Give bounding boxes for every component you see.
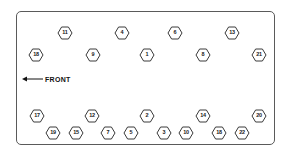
- position-marker-label: 22: [239, 130, 245, 136]
- position-marker-label: 10: [183, 130, 189, 136]
- position-marker-label: 7: [107, 130, 110, 136]
- position-marker[interactable]: 3: [156, 126, 172, 140]
- position-marker-label: 1: [146, 52, 149, 58]
- position-marker[interactable]: 18: [28, 48, 44, 62]
- front-label: FRONT: [45, 76, 71, 83]
- position-marker[interactable]: 12: [84, 109, 100, 123]
- position-marker-label: 6: [174, 30, 177, 36]
- position-marker[interactable]: 18: [211, 126, 227, 140]
- position-marker[interactable]: 13: [224, 26, 240, 40]
- front-direction-indicator: FRONT: [22, 75, 71, 83]
- position-marker-label: 20: [256, 113, 262, 119]
- position-marker[interactable]: 5: [123, 126, 139, 140]
- position-marker[interactable]: 6: [167, 26, 183, 40]
- position-marker-label: 14: [200, 113, 206, 119]
- position-marker[interactable]: 21: [251, 48, 267, 62]
- position-marker[interactable]: 10: [178, 126, 194, 140]
- position-marker[interactable]: 20: [251, 109, 267, 123]
- position-marker[interactable]: 2: [139, 109, 155, 123]
- position-marker-label: 11: [62, 30, 67, 36]
- position-marker[interactable]: 7: [100, 126, 116, 140]
- position-marker-label: 4: [121, 30, 124, 36]
- layout-diagram: 11461318918211712214201915753101822 FRON…: [0, 0, 288, 160]
- position-marker[interactable]: 9: [85, 48, 101, 62]
- position-marker-label: 5: [130, 130, 133, 136]
- position-marker[interactable]: 17: [29, 109, 45, 123]
- position-marker[interactable]: 19: [45, 126, 61, 140]
- position-marker[interactable]: 11: [57, 26, 73, 40]
- position-marker[interactable]: 15: [68, 126, 84, 140]
- arrow-left-icon: [22, 75, 44, 83]
- position-marker[interactable]: 14: [195, 109, 211, 123]
- position-marker-label: 15: [73, 130, 79, 136]
- position-marker-label: 17: [34, 113, 40, 119]
- position-marker-label: 9: [92, 52, 95, 58]
- position-marker[interactable]: 4: [114, 26, 130, 40]
- position-marker-label: 3: [163, 130, 166, 136]
- position-marker-label: 18: [216, 130, 222, 136]
- position-marker[interactable]: 22: [234, 126, 250, 140]
- position-marker-label: 2: [146, 113, 149, 119]
- position-marker[interactable]: 1: [139, 48, 155, 62]
- position-marker-label: 21: [256, 52, 262, 58]
- position-marker-label: 19: [50, 130, 56, 136]
- position-marker-label: 12: [89, 113, 95, 119]
- position-marker-label: 13: [229, 30, 235, 36]
- position-marker-label: 18: [33, 52, 39, 58]
- position-marker[interactable]: 8: [195, 48, 211, 62]
- position-marker-label: 8: [202, 52, 205, 58]
